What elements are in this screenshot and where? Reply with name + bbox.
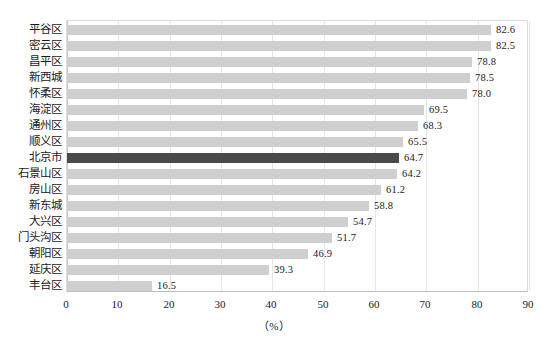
bar[interactable]: [67, 89, 467, 99]
y-axis-label: 房山区: [0, 181, 62, 197]
y-axis-label: 北京市: [0, 149, 62, 165]
y-axis-label: 丰台区: [0, 277, 62, 293]
x-tick-label: 20: [149, 296, 189, 312]
bar[interactable]: [67, 25, 491, 35]
bar[interactable]: [67, 57, 472, 67]
y-axis-category-labels: 平谷区密云区昌平区新西城怀柔区海淀区通州区顺义区北京市石景山区房山区新东城大兴区…: [0, 20, 62, 292]
bar-row[interactable]: 82.5: [67, 38, 527, 54]
bar-value-label: 16.5: [157, 278, 176, 294]
bar[interactable]: [67, 201, 369, 211]
x-axis-tick-labels: 0102030405060708090: [0, 296, 548, 314]
x-tick-label: 0: [46, 296, 86, 312]
bar-row[interactable]: 58.8: [67, 198, 527, 214]
bar-value-label: 78.0: [472, 86, 491, 102]
bar-value-label: 68.3: [423, 118, 442, 134]
y-axis-label: 密云区: [0, 37, 62, 53]
x-tick-label: 60: [354, 296, 394, 312]
bar-row[interactable]: 46.9: [67, 246, 527, 262]
y-axis-label: 门头沟区: [0, 229, 62, 245]
bar[interactable]: [67, 233, 332, 243]
y-axis-label: 石景山区: [0, 165, 62, 181]
bar-value-label: 61.2: [386, 182, 405, 198]
x-tick-label: 70: [405, 296, 445, 312]
bar-value-label: 46.9: [313, 246, 332, 262]
bar[interactable]: [67, 217, 348, 227]
bar-row[interactable]: 65.5: [67, 134, 527, 150]
y-axis-label: 顺义区: [0, 133, 62, 149]
bar-value-label: 39.3: [274, 262, 293, 278]
y-axis-label: 朝阳区: [0, 245, 62, 261]
y-axis-label: 延庆区: [0, 261, 62, 277]
bar[interactable]: [67, 121, 418, 131]
bar-row[interactable]: 61.2: [67, 182, 527, 198]
x-tick-label: 40: [251, 296, 291, 312]
y-axis-label: 怀柔区: [0, 85, 62, 101]
bar-row[interactable]: 69.5: [67, 102, 527, 118]
bar-row[interactable]: 68.3: [67, 118, 527, 134]
y-axis-label: 昌平区: [0, 53, 62, 69]
x-tick-label: 10: [97, 296, 137, 312]
bar[interactable]: [67, 73, 470, 83]
bar-value-label: 54.7: [353, 214, 372, 230]
x-axis-unit-label: （%）: [0, 317, 548, 333]
y-axis-label: 新东城: [0, 197, 62, 213]
bar-row[interactable]: 78.5: [67, 70, 527, 86]
bar-row[interactable]: 54.7: [67, 214, 527, 230]
bar[interactable]: [67, 41, 491, 51]
bar-row[interactable]: 78.0: [67, 86, 527, 102]
bar[interactable]: [67, 265, 269, 275]
bar-value-label: 82.5: [496, 38, 515, 54]
bar-row[interactable]: 39.3: [67, 262, 527, 278]
bar[interactable]: [67, 105, 424, 115]
bar-row[interactable]: 78.8: [67, 54, 527, 70]
bar-rows: 82.682.578.878.578.069.568.365.564.764.2…: [67, 21, 527, 291]
x-tick-label: 30: [200, 296, 240, 312]
y-axis-label: 海淀区: [0, 101, 62, 117]
bar[interactable]: [67, 137, 403, 147]
bar-row[interactable]: 64.7: [67, 150, 527, 166]
bar-value-label: 51.7: [337, 230, 356, 246]
bar[interactable]: [67, 249, 308, 259]
bar-row[interactable]: 64.2: [67, 166, 527, 182]
bar[interactable]: [67, 281, 152, 291]
y-axis-label: 大兴区: [0, 213, 62, 229]
gridline-90: [529, 21, 530, 291]
plot-area: 82.682.578.878.578.069.568.365.564.764.2…: [66, 20, 528, 292]
bar-row[interactable]: 51.7: [67, 230, 527, 246]
bar-row[interactable]: 16.5: [67, 278, 527, 294]
bar-value-label: 78.5: [475, 70, 494, 86]
x-tick-label: 50: [303, 296, 343, 312]
bar-row[interactable]: 82.6: [67, 22, 527, 38]
bar-chart: 平谷区密云区昌平区新西城怀柔区海淀区通州区顺义区北京市石景山区房山区新东城大兴区…: [0, 0, 548, 343]
bar-value-label: 69.5: [429, 102, 448, 118]
y-axis-label: 平谷区: [0, 21, 62, 37]
y-axis-label: 通州区: [0, 117, 62, 133]
bar[interactable]: [67, 153, 399, 163]
bar[interactable]: [67, 169, 397, 179]
bar[interactable]: [67, 185, 381, 195]
bar-value-label: 82.6: [496, 22, 515, 38]
y-axis-label: 新西城: [0, 69, 62, 85]
x-tick-label: 80: [457, 296, 497, 312]
bar-value-label: 64.7: [404, 150, 423, 166]
bar-value-label: 65.5: [408, 134, 427, 150]
x-tick-label: 90: [508, 296, 548, 312]
bar-value-label: 78.8: [477, 54, 496, 70]
bar-value-label: 64.2: [402, 166, 421, 182]
bar-value-label: 58.8: [374, 198, 393, 214]
